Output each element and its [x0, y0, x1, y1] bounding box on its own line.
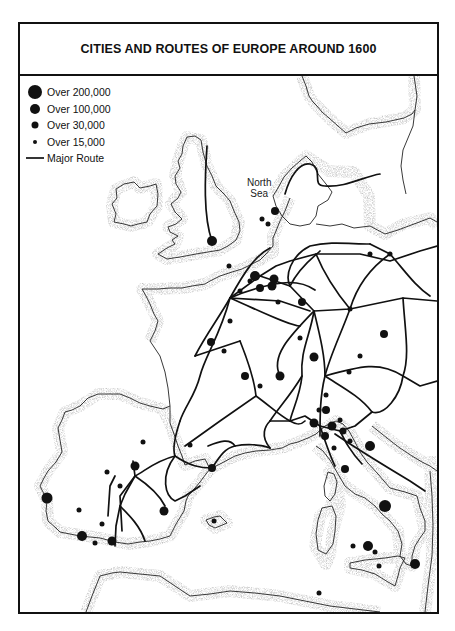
city-marker-30k: [248, 279, 253, 284]
city-marker-200k: [379, 500, 391, 512]
city-marker-100k: [207, 338, 215, 346]
route: [270, 311, 314, 421]
legend-item-over-15000: Over 15,000: [25, 134, 111, 151]
city-marker-30k: [332, 446, 337, 451]
city-marker-30k: [105, 470, 110, 475]
legend: Over 200,000 Over 100,000 Over 30,000 Ov…: [25, 84, 111, 167]
route: [325, 309, 350, 376]
legend-label: Over 100,000: [47, 103, 111, 115]
city-marker-100k: [160, 507, 169, 516]
route: [230, 298, 310, 311]
legend-item-over-100000: Over 100,000: [25, 101, 111, 118]
route: [208, 441, 235, 446]
city-marker-100k: [328, 422, 337, 431]
route: [403, 298, 407, 376]
city-marker-30k: [276, 300, 281, 305]
city-marker-100k: [380, 330, 388, 338]
city-marker-30k: [238, 289, 243, 294]
city-dot-lg-icon: [25, 101, 45, 117]
city-marker-100k: [271, 207, 279, 215]
title-box: CITIES AND ROUTES OF EUROPE AROUND 1600: [20, 24, 437, 76]
city-marker-30k: [100, 522, 105, 527]
city-marker-30k: [348, 307, 353, 312]
route: [230, 298, 300, 326]
north-sea-label-line1: North: [247, 177, 271, 188]
city-marker-30k: [260, 217, 265, 222]
city-marker-30k: [317, 408, 322, 413]
city-marker-30k: [358, 354, 363, 359]
city-marker-100k: [256, 284, 264, 292]
route: [260, 276, 437, 311]
city-marker-100k: [131, 462, 140, 471]
city-marker-100k: [310, 419, 319, 428]
city-marker-30k: [212, 519, 217, 524]
coast-biscay: [150, 341, 170, 406]
city-marker-30k: [373, 550, 378, 555]
map-frame: CITIES AND ROUTES OF EUROPE AROUND 1600: [18, 22, 439, 614]
city-marker-100k: [365, 441, 375, 451]
city-marker-30k: [228, 319, 233, 324]
legend-item-major-route: Major Route: [25, 150, 111, 167]
route: [180, 298, 230, 421]
city-marker-100k: [108, 537, 117, 546]
route: [195, 298, 230, 356]
north-sea-label: North Sea: [247, 177, 271, 199]
city-marker-30k: [141, 440, 146, 445]
legend-label: Over 15,000: [47, 136, 105, 148]
route: [290, 376, 302, 421]
city-marker-30k: [93, 541, 98, 546]
route: [325, 367, 437, 386]
city-marker-30k: [317, 591, 322, 596]
city-dot-xl-icon: [25, 84, 45, 100]
city-marker-30k: [368, 252, 373, 257]
city-marker-200k: [207, 236, 217, 246]
city-marker-100k: [298, 298, 306, 306]
city-marker-30k: [377, 564, 382, 569]
north-sea-label-line2: Sea: [247, 188, 271, 199]
city-marker-30k: [347, 370, 352, 375]
city-marker-30k: [188, 443, 193, 448]
city-marker-30k: [351, 544, 356, 549]
city-marker-100k: [310, 353, 319, 362]
route: [325, 376, 372, 412]
city-marker-100k: [341, 465, 349, 473]
route: [290, 421, 305, 424]
city-marker-100k: [410, 559, 420, 569]
city-marker-30k: [227, 264, 232, 269]
route: [372, 376, 403, 413]
route: [108, 476, 115, 516]
city-marker-30k: [222, 349, 227, 354]
legend-label: Over 200,000: [47, 86, 111, 98]
city-marker-100k: [276, 372, 285, 381]
city-marker-30k: [266, 222, 271, 227]
city-marker-30k: [118, 484, 123, 489]
city-marker-30k: [298, 336, 303, 341]
city-dot-sm-icon: [25, 134, 45, 150]
city-marker-100k: [321, 432, 329, 440]
city-marker-30k: [348, 439, 353, 444]
city-marker-100k: [208, 464, 216, 472]
route-line-icon: [25, 150, 45, 166]
route: [120, 506, 145, 541]
legend-label: Major Route: [47, 152, 104, 164]
city-marker-100k: [322, 406, 330, 414]
map-title: CITIES AND ROUTES OF EUROPE AROUND 1600: [80, 42, 376, 56]
city-marker-200k: [42, 493, 53, 504]
city-marker-100k: [340, 428, 347, 435]
route: [314, 311, 325, 376]
city-marker-30k: [258, 384, 263, 389]
legend-label: Over 30,000: [47, 119, 105, 131]
route: [350, 254, 390, 309]
route: [120, 476, 135, 531]
route: [316, 254, 350, 309]
city-marker-30k: [77, 508, 82, 513]
route: [135, 476, 165, 506]
city-marker-30k: [388, 252, 393, 257]
map-area: Over 200,000 Over 100,000 Over 30,000 Ov…: [20, 76, 437, 612]
city-marker-100k: [268, 282, 277, 291]
city-marker-100k: [241, 372, 249, 380]
city-marker-30k: [324, 393, 329, 398]
city-marker-100k: [77, 531, 87, 541]
city-marker-30k: [338, 418, 343, 423]
route: [370, 244, 430, 296]
